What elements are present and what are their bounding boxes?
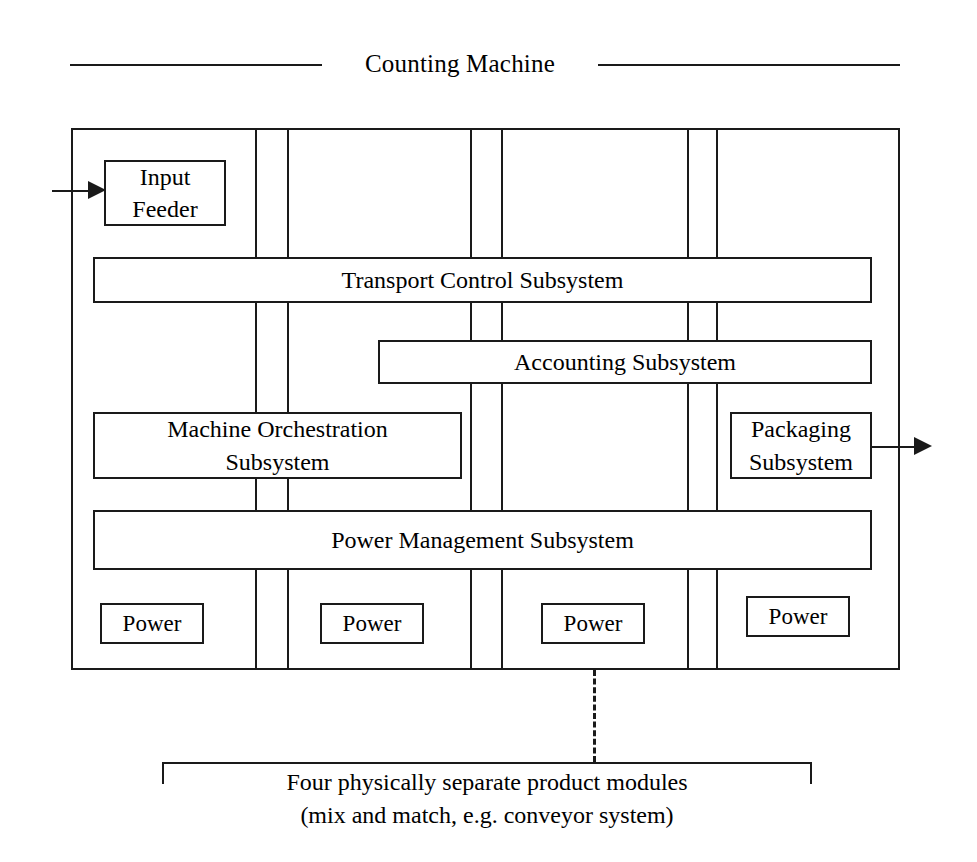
module-divider-2-right <box>470 128 472 670</box>
box-input-feeder: Input Feeder <box>104 160 226 226</box>
box-input-feeder-label-line2: Feeder <box>126 193 203 225</box>
module-divider-3-right <box>687 128 689 670</box>
output-arrow-head-icon <box>914 437 932 455</box>
box-accounting-label: Accounting Subsystem <box>508 348 742 377</box>
box-power-1-label: Power <box>117 609 188 638</box>
callout-dashed-leader <box>593 670 596 762</box>
diagram-title: Counting Machine <box>322 48 598 80</box>
box-orchestration-label-line2: Subsystem <box>161 446 394 479</box>
box-packaging-subsystem: Packaging Subsystem <box>730 412 872 479</box>
box-packaging-label-line1: Packaging <box>743 413 859 446</box>
module-divider-2-left <box>287 128 289 670</box>
input-arrow-head-icon <box>88 181 106 199</box>
input-arrow-line <box>52 190 90 192</box>
output-arrow-line <box>872 446 916 448</box>
box-input-feeder-label-line1: Input <box>126 161 203 193</box>
box-power-management-subsystem: Power Management Subsystem <box>93 510 872 570</box>
title-rule-left <box>70 64 322 66</box>
box-orchestration-label-line1: Machine Orchestration <box>161 413 394 446</box>
box-power-3-label: Power <box>558 609 629 638</box>
box-packaging-label-line2: Subsystem <box>743 446 859 479</box>
box-transport-control-subsystem: Transport Control Subsystem <box>93 257 872 303</box>
box-power-module-1: Power <box>100 603 204 644</box>
module-divider-4-left <box>716 128 718 670</box>
box-power-module-4: Power <box>746 596 850 637</box>
box-power-management-label: Power Management Subsystem <box>325 526 640 555</box>
box-power-module-2: Power <box>320 603 424 644</box>
box-machine-orchestration-subsystem: Machine Orchestration Subsystem <box>93 412 462 479</box>
callout-caption-line2: (mix and match, e.g. conveyor system) <box>162 799 812 832</box>
callout-caption: Four physically separate product modules… <box>162 766 812 832</box>
box-accounting-subsystem: Accounting Subsystem <box>378 340 872 384</box>
box-power-4-label: Power <box>763 602 834 631</box>
box-power-2-label: Power <box>337 609 408 638</box>
diagram-canvas: Counting Machine Input Feeder Transport … <box>0 0 977 862</box>
callout-caption-line1: Four physically separate product modules <box>162 766 812 799</box>
module-divider-1-right <box>255 128 257 670</box>
box-power-module-3: Power <box>541 603 645 644</box>
title-rule-right <box>598 64 900 66</box>
box-transport-control-label: Transport Control Subsystem <box>336 266 630 295</box>
module-divider-3-left <box>501 128 503 670</box>
